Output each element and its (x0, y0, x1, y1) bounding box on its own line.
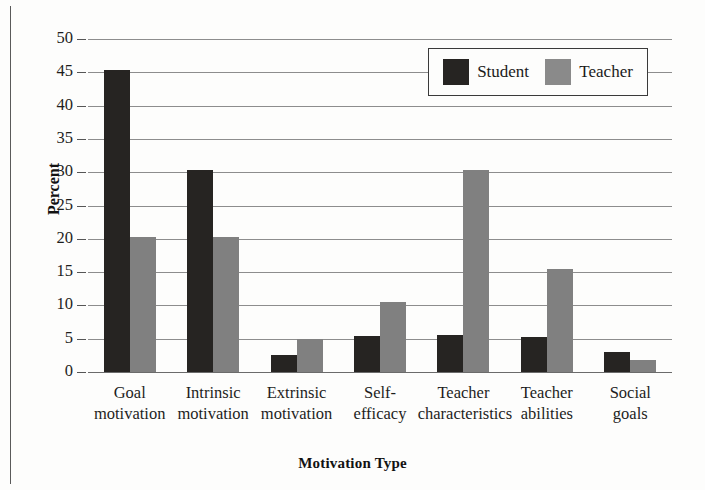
y-tick-label: 10 (20, 296, 73, 313)
category-label-line: Intrinsic (167, 382, 258, 403)
category-label-line: motivation (167, 403, 258, 424)
gray-swatch-icon (545, 59, 571, 85)
category-label-line: Extrinsic (251, 382, 342, 403)
gridline (88, 239, 672, 240)
y-tick-mark (77, 305, 86, 306)
category-label-line: motivation (84, 403, 175, 424)
gridline (88, 206, 672, 207)
gridline (88, 139, 672, 140)
legend-label-teacher: Teacher (579, 62, 633, 82)
category-label: Teacherabilities (501, 382, 592, 424)
category-label-line: Teacher (418, 382, 509, 403)
category-label: Socialgoals (585, 382, 676, 424)
x-axis-category-labels: GoalmotivationIntrinsicmotivationExtrins… (88, 382, 672, 438)
legend-item-student: Student (443, 59, 529, 85)
gridline (88, 305, 672, 306)
gridline (88, 106, 672, 107)
category-label-line: characteristics (418, 403, 509, 424)
category-label-line: motivation (251, 403, 342, 424)
bar-chart-figure: 05101520253035404550 Student Teacher Goa… (0, 0, 705, 490)
dark-swatch-icon (443, 59, 469, 85)
category-label: Intrinsicmotivation (167, 382, 258, 424)
y-tick-mark (77, 106, 86, 107)
y-tick-label: 5 (20, 330, 73, 347)
gridline (88, 39, 672, 40)
category-label: Self-efficacy (334, 382, 425, 424)
category-label: Teachercharacteristics (418, 382, 509, 424)
y-tick-mark (77, 206, 86, 207)
y-tick-mark (77, 339, 86, 340)
category-label-line: efficacy (334, 403, 425, 424)
category-label-line: Social (585, 382, 676, 403)
y-tick-mark (77, 139, 86, 140)
gridline (88, 339, 672, 340)
chart-legend: Student Teacher (428, 48, 648, 96)
y-tick-mark (77, 172, 86, 173)
y-tick-label: 15 (20, 263, 73, 280)
y-tick-mark (77, 72, 86, 73)
category-label-line: Teacher (501, 382, 592, 403)
category-label: Extrinsicmotivation (251, 382, 342, 424)
y-tick-label: 50 (20, 30, 73, 47)
y-tick-label: 45 (20, 63, 73, 80)
y-tick-label: 40 (20, 97, 73, 114)
category-label-line: abilities (501, 403, 592, 424)
gridline (88, 272, 672, 273)
x-axis-baseline (88, 372, 672, 373)
category-label-line: goals (585, 403, 676, 424)
y-axis-title: Percent (45, 129, 63, 249)
category-label-line: Goal (84, 382, 175, 403)
gridline (88, 172, 672, 173)
category-label-line: Self- (334, 382, 425, 403)
y-tick-label: 0 (20, 363, 73, 380)
category-label: Goalmotivation (84, 382, 175, 424)
y-tick-mark (77, 372, 86, 373)
x-axis-title: Motivation Type (0, 455, 705, 472)
y-tick-mark (77, 39, 86, 40)
y-tick-mark (77, 272, 86, 273)
legend-item-teacher: Teacher (545, 59, 633, 85)
y-tick-mark (77, 239, 86, 240)
page-left-rule (10, 6, 11, 484)
legend-label-student: Student (477, 62, 529, 82)
